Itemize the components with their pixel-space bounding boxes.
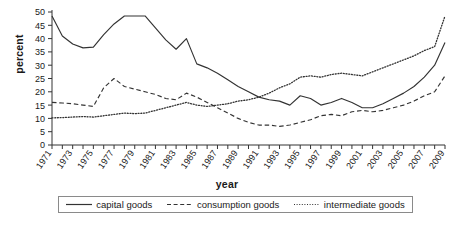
axis-lines bbox=[52, 10, 445, 145]
x-tick-label: 1985 bbox=[179, 148, 199, 170]
x-tick-label: 1973 bbox=[55, 148, 75, 170]
x-tick-label: 2003 bbox=[365, 148, 385, 170]
chart-figure: percent year 05101520253035404550 197119… bbox=[0, 0, 454, 233]
y-tick-label: 15 bbox=[35, 101, 45, 111]
y-tick-label: 45 bbox=[35, 21, 45, 31]
y-tick-label: 10 bbox=[35, 114, 45, 124]
x-tick-label: 1979 bbox=[117, 148, 137, 170]
legend-label: capital goods bbox=[96, 199, 152, 210]
legend-swatch-dashed-icon bbox=[167, 201, 193, 208]
y-tick-label: 30 bbox=[35, 61, 45, 71]
x-tick-label: 1987 bbox=[199, 148, 219, 170]
series-line-consumption-goods bbox=[52, 76, 445, 127]
x-tick-label: 1993 bbox=[261, 148, 281, 170]
x-axis-ticks: 1971197319751977197919811983198519871989… bbox=[34, 145, 447, 171]
y-tick-label: 50 bbox=[35, 7, 45, 17]
x-tick-label: 1989 bbox=[220, 148, 240, 170]
x-tick-label: 1981 bbox=[137, 148, 157, 170]
x-tick-label: 1997 bbox=[303, 148, 323, 170]
y-tick-label: 40 bbox=[35, 34, 45, 44]
y-axis-ticks: 05101520253035404550 bbox=[35, 7, 52, 150]
y-tick-label: 20 bbox=[35, 87, 45, 97]
x-tick-label: 2005 bbox=[386, 148, 406, 170]
x-tick-label: 1999 bbox=[324, 148, 344, 170]
x-tick-label: 1975 bbox=[75, 148, 95, 170]
y-tick-label: 35 bbox=[35, 47, 45, 57]
legend-swatch-solid-icon bbox=[66, 201, 92, 208]
x-tick-label: 2001 bbox=[344, 148, 364, 170]
x-tick-label: 1995 bbox=[282, 148, 302, 170]
x-tick-label: 1991 bbox=[241, 148, 261, 170]
x-tick-label: 1977 bbox=[96, 148, 116, 170]
y-tick-label: 5 bbox=[40, 127, 45, 137]
legend-item-consumption-goods: consumption goods bbox=[167, 199, 279, 210]
series-line-capital-goods bbox=[52, 16, 445, 108]
legend-label: consumption goods bbox=[197, 199, 279, 210]
legend-swatch-dotted-icon bbox=[294, 201, 320, 208]
x-tick-label: 2007 bbox=[406, 148, 426, 170]
legend-item-intermediate-goods: intermediate goods bbox=[294, 199, 405, 210]
y-tick-label: 25 bbox=[35, 74, 45, 84]
legend-label: intermediate goods bbox=[324, 199, 405, 210]
x-tick-label: 1983 bbox=[158, 148, 178, 170]
data-series-group bbox=[52, 16, 445, 126]
chart-legend: capital goods consumption goods intermed… bbox=[58, 196, 413, 213]
x-tick-label: 2009 bbox=[427, 148, 447, 170]
x-tick-label: 1971 bbox=[34, 148, 54, 170]
legend-item-capital-goods: capital goods bbox=[66, 199, 152, 210]
